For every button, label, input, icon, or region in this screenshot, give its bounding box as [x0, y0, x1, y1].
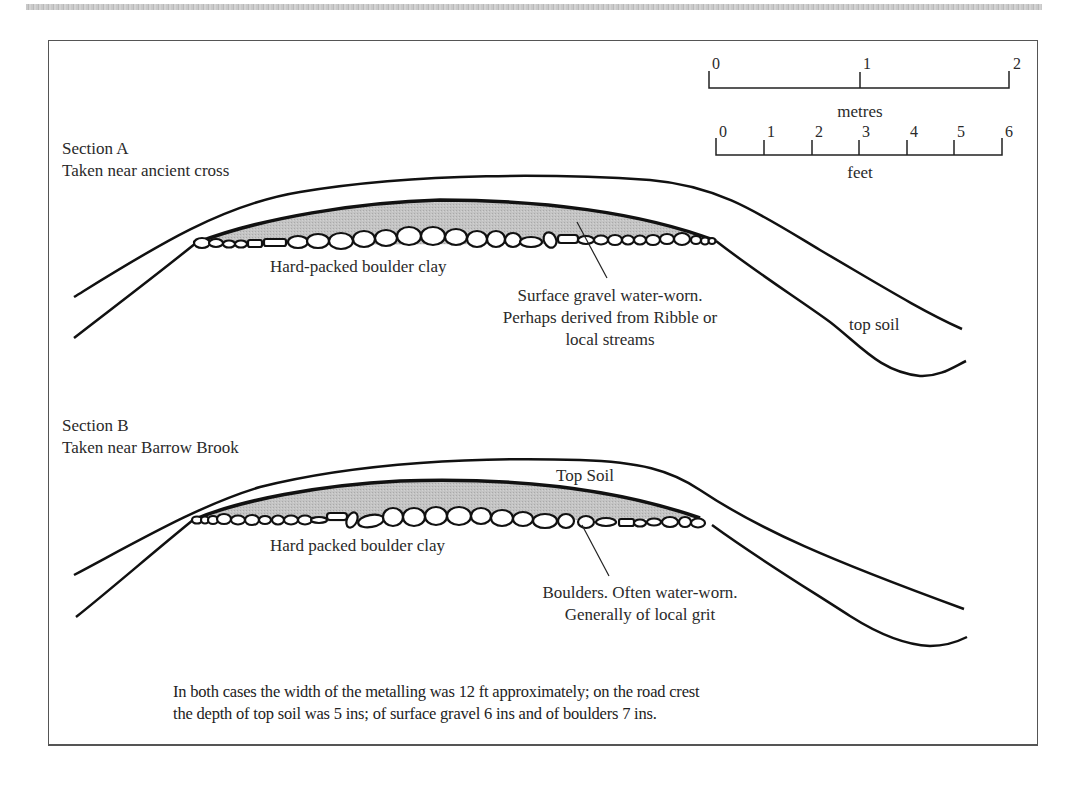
- scale-feet-tick-5: 5: [957, 124, 965, 140]
- scale-feet-tick-0: 0: [719, 124, 727, 140]
- section-a-base-label: Hard-packed boulder clay: [270, 256, 447, 277]
- scale-metres-tick-0: 0: [712, 56, 720, 72]
- scale-metres-label: metres: [810, 101, 910, 122]
- section-b-subtitle: Taken near Barrow Brook: [62, 437, 239, 458]
- section-a-gravel-annotation-3: local streams: [480, 329, 740, 350]
- section-b-top-soil-label: Top Soil: [556, 465, 614, 486]
- scale-metres-tick-1: 1: [863, 56, 871, 72]
- footnote: In both cases the width of the metalling…: [173, 681, 699, 725]
- section-b-boulder-annotation-2: Generally of local grit: [510, 604, 770, 625]
- section-a-subtitle: Taken near ancient cross: [62, 160, 229, 181]
- scale-feet-label: feet: [810, 162, 910, 183]
- section-b-leader-line: [582, 525, 609, 576]
- scale-bar-feet: [716, 138, 1002, 155]
- road-section-diagram: [0, 0, 1082, 794]
- section-b-boulder-annotation-1: Boulders. Often water-worn.: [510, 582, 770, 603]
- scale-feet-tick-4: 4: [910, 124, 918, 140]
- scale-bar-metres: [709, 71, 1009, 88]
- section-a-gravel-annotation-1: Surface gravel water-worn.: [480, 285, 740, 306]
- scale-feet-tick-2: 2: [815, 124, 823, 140]
- section-b-title: Section B: [62, 415, 129, 436]
- scale-metres-tick-2: 2: [1013, 56, 1021, 72]
- footnote-line-1: In both cases the width of the metalling…: [173, 681, 699, 703]
- scale-feet-tick-6: 6: [1005, 124, 1013, 140]
- section-b-base-label: Hard packed boulder clay: [270, 535, 445, 556]
- section-a-title: Section A: [62, 138, 129, 159]
- scale-feet-tick-1: 1: [767, 124, 775, 140]
- scale-feet-tick-3: 3: [862, 124, 870, 140]
- section-a-gravel-annotation-2: Perhaps derived from Ribble or: [480, 307, 740, 328]
- footnote-line-2: the depth of top soil was 5 ins; of surf…: [173, 703, 699, 725]
- section-a-top-soil-label: top soil: [849, 314, 900, 335]
